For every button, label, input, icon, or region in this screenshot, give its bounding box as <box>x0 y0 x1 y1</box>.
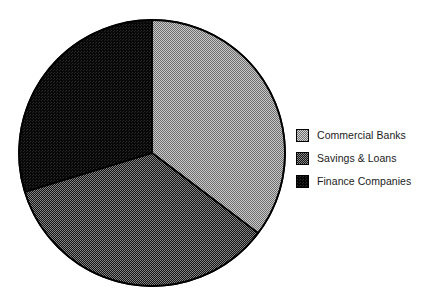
chart-legend: Commercial Banks Savings & Loans Finance… <box>296 124 438 193</box>
legend-label-finance-companies: Finance Companies <box>317 175 411 188</box>
legend-swatch-savings-and-loans <box>296 152 309 165</box>
pie-svg <box>0 0 300 304</box>
pie-chart-figure: Commercial Banks Savings & Loans Finance… <box>0 0 438 304</box>
legend-item-finance-companies: Finance Companies <box>296 170 438 193</box>
legend-swatch-finance-companies <box>296 175 309 188</box>
legend-item-savings-and-loans: Savings & Loans <box>296 147 438 170</box>
legend-swatch-commercial-banks <box>296 129 309 142</box>
legend-item-commercial-banks: Commercial Banks <box>296 124 438 147</box>
pie-plot-area <box>0 0 300 304</box>
legend-label-commercial-banks: Commercial Banks <box>317 129 406 142</box>
legend-label-savings-and-loans: Savings & Loans <box>317 152 397 165</box>
